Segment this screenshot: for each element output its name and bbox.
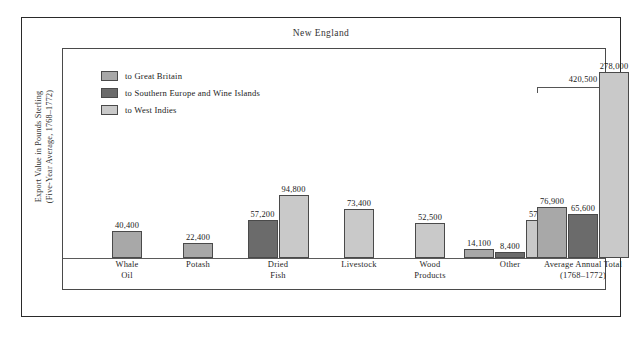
bar-rect[interactable] [464, 249, 494, 258]
bar-group-dried-fish: 57,20094,800 [248, 195, 309, 258]
bar-value-label: 52,500 [418, 213, 442, 223]
category-label-line2: (1768–1772) [523, 270, 643, 281]
bar-rect[interactable] [112, 231, 142, 258]
bar-value-label: 22,400 [186, 233, 210, 243]
chart-figure: New England Export Value in Pounds Sterl… [21, 17, 621, 317]
category-labels: WhaleOilPotashDriedFishLivestockWoodProd… [63, 259, 605, 287]
bar-rect[interactable] [568, 214, 598, 258]
bar-livestock-1[interactable]: 73,400 [344, 209, 374, 258]
bar-group-whale-oil: 40,400 [112, 231, 142, 258]
y-axis-label-line2: (Five-Year Average, 1768–1772) [44, 67, 55, 227]
bar-group-potash: 22,400 [183, 243, 213, 258]
category-label-line1: Dried [268, 259, 288, 269]
y-axis-label-line1: Export Value in Pounds Sterling [34, 91, 43, 203]
bar-whale-oil-1[interactable]: 40,400 [112, 231, 142, 258]
bar-rect[interactable] [279, 195, 309, 258]
bar-rect[interactable] [248, 220, 278, 258]
bar-value-label: 14,100 [467, 239, 491, 249]
bar-rect[interactable] [599, 72, 629, 258]
chart-title: New England [22, 28, 620, 38]
bar-rect[interactable] [183, 243, 213, 258]
bar-other-1[interactable]: 14,100 [464, 249, 494, 258]
category-label-line2: Oil [67, 270, 187, 281]
bar-value-label: 57,200 [250, 210, 274, 220]
bar-group-average-annual-total: 76,90065,600278,000 [537, 72, 629, 258]
bar-value-label: 40,400 [115, 221, 139, 231]
bar-value-label: 94,800 [281, 185, 305, 195]
bar-average-annual-total-1[interactable]: 76,900 [537, 207, 567, 258]
y-axis-label: Export Value in Pounds Sterling (Five-Ye… [34, 67, 55, 227]
category-label-line2: Fish [218, 270, 338, 281]
bar-potash-1[interactable]: 22,400 [183, 243, 213, 258]
bar-value-label: 76,900 [540, 197, 564, 207]
category-label-line1: Average Annual Total [544, 259, 622, 269]
bar-value-label: 73,400 [347, 199, 371, 209]
category-label-line1: Other [500, 259, 520, 269]
plot-area: to Great Britainto Southern Europe and W… [62, 48, 606, 290]
bar-dried-fish-1[interactable]: 57,200 [248, 220, 278, 258]
category-label-line1: Whale [115, 259, 138, 269]
bar-value-label: 65,600 [571, 204, 595, 214]
bar-value-label: 278,000 [600, 62, 629, 72]
bar-rect[interactable] [415, 223, 445, 258]
bar-dried-fish-2[interactable]: 94,800 [279, 195, 309, 258]
category-label-average-annual-total: Average Annual Total(1768–1772) [523, 259, 643, 280]
category-label-line1: Potash [186, 259, 210, 269]
bar-rect[interactable] [344, 209, 374, 258]
bar-wood-products-1[interactable]: 52,500 [415, 223, 445, 258]
bar-group-livestock: 73,400 [344, 209, 374, 258]
bar-value-label: 8,400 [500, 242, 520, 252]
category-label-line2: Products [370, 270, 490, 281]
bars-container: 40,40022,40057,20094,80073,40052,50014,1… [63, 58, 605, 258]
bar-group-wood-products: 52,500 [415, 223, 445, 258]
category-label-line1: Wood [420, 259, 441, 269]
bar-average-annual-total-3[interactable]: 278,000 [599, 72, 629, 258]
bar-average-annual-total-2[interactable]: 65,600 [568, 214, 598, 258]
bar-rect[interactable] [537, 207, 567, 258]
